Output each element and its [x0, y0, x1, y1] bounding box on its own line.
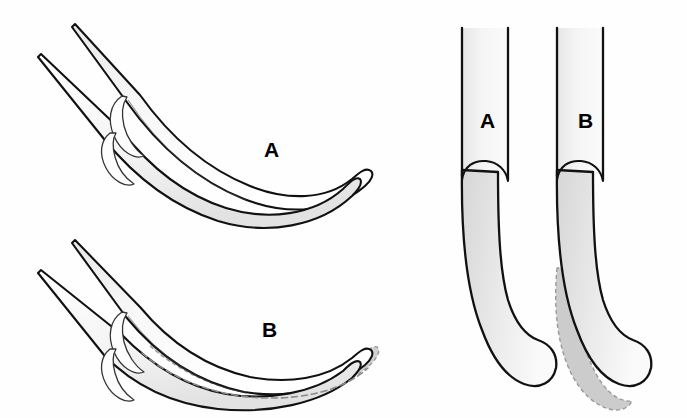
shaft-fill-a [462, 28, 508, 175]
blade-body-frontal-a [462, 170, 556, 386]
blade-inner-body-b [38, 270, 361, 410]
lateral-view-b: B [38, 240, 379, 410]
anatomical-figure-svg: A B [0, 0, 687, 418]
frontal-label-a: A [480, 109, 495, 132]
shaft-fill-b [557, 28, 603, 175]
lateral-label-a: A [264, 138, 279, 161]
lateral-label-b: B [262, 318, 277, 341]
frontal-label-b: B [578, 109, 593, 132]
frontal-view-a: A [462, 28, 556, 386]
figure-canvas: A B [0, 0, 687, 418]
frontal-view-b: B [556, 28, 652, 410]
lateral-view-a: A [38, 24, 372, 228]
